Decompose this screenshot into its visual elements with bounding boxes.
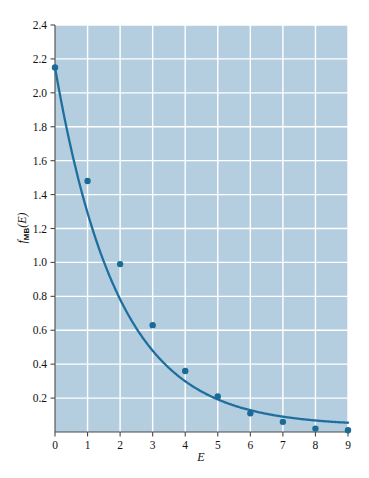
x-axis-tick-label: 3	[150, 439, 156, 451]
y-axis-tick-label: 0.6	[33, 324, 48, 336]
x-axis-tick-label: 6	[247, 439, 253, 451]
x-axis-tick-label: 5	[215, 439, 221, 451]
y-axis-tick-label: 1.4	[33, 189, 48, 201]
x-axis-tick-label: 1	[85, 439, 91, 451]
x-axis-tick-label: 9	[345, 439, 351, 451]
y-axis-tick-label: 1.8	[33, 121, 48, 133]
y-axis-tick-label: 2.2	[33, 53, 48, 65]
y-axis-tick-label: 2.0	[33, 87, 48, 99]
x-axis-tick-label: 8	[313, 439, 319, 451]
data-point	[52, 64, 58, 70]
data-point	[182, 368, 188, 374]
x-axis-tick-label: 7	[280, 439, 286, 451]
x-axis-tick-label: 2	[117, 439, 123, 451]
maxwell-boltzmann-distribution-chart: 0.20.40.60.81.01.21.41.61.82.02.22.4 012…	[0, 0, 369, 478]
y-axis-tick-label: 1.6	[33, 155, 48, 167]
y-axis-tick-label: 1.0	[33, 256, 48, 268]
x-axis-tick-label: 0	[52, 439, 58, 451]
y-axis-tick-label: 1.2	[33, 223, 48, 235]
data-point	[345, 427, 351, 433]
x-axis-tick-label: 4	[182, 439, 188, 451]
data-point	[312, 425, 318, 431]
data-point	[280, 419, 286, 425]
y-axis-tick-label: 0.2	[33, 392, 48, 404]
data-point	[117, 261, 123, 267]
x-axis-title: E	[196, 450, 205, 464]
data-point	[247, 410, 253, 416]
data-point	[215, 393, 221, 399]
y-axis-tick-label: 0.4	[33, 358, 48, 370]
y-axis-title-argument: (E)	[15, 212, 29, 227]
data-point	[84, 178, 90, 184]
chart-figure: 0.20.40.60.81.01.21.41.61.82.02.22.4 012…	[0, 0, 369, 478]
y-axis-tick-label: 2.4	[33, 19, 48, 31]
y-axis-title-subscript: MB	[22, 228, 31, 241]
y-axis-tick-label: 0.8	[33, 290, 48, 302]
data-point	[149, 322, 155, 328]
